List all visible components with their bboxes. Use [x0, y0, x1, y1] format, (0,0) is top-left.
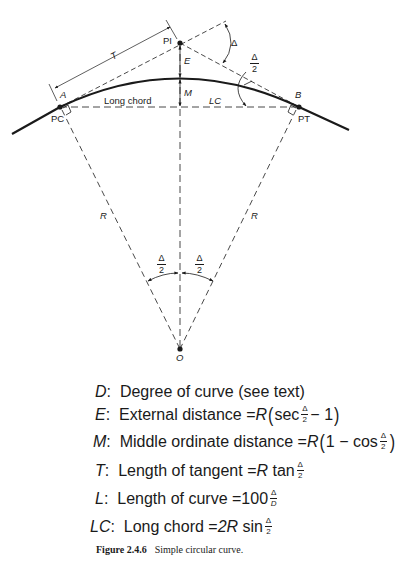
definition-text: Middle ordinate distance =: [120, 433, 307, 451]
formula-rparen: ): [390, 431, 395, 452]
fraction-numerator: Δ: [302, 405, 307, 413]
formula-sec: sec: [274, 406, 299, 424]
colon: :: [106, 406, 119, 424]
formula-sin: sin: [243, 518, 263, 536]
half-delta-arc-pt: [238, 72, 246, 106]
definition-d: D: Degree of curve (see text): [95, 383, 305, 401]
formula-fraction: Δ2: [380, 432, 387, 451]
definition-e: E: External distance = R ( sec Δ2 − 1 ): [95, 405, 340, 424]
fraction-denominator: 2: [252, 65, 257, 74]
point-o: [177, 346, 182, 351]
label-pt: PT: [298, 114, 310, 124]
definition-symbol: LC: [90, 518, 110, 536]
point-pt: [296, 104, 301, 109]
fraction-denominator: 2: [303, 416, 307, 424]
definition-m: M: Middle ordinate distance = R ( 1 − co…: [93, 432, 396, 451]
label-half-delta-o-left: Δ 2: [157, 254, 166, 275]
definition-l: L: Length of curve = 100 ΔD: [95, 489, 279, 508]
fraction-numerator: Δ: [381, 432, 386, 440]
label-pi: PI: [163, 36, 172, 46]
point-pc: [57, 104, 62, 109]
formula-fraction: Δ2: [301, 405, 308, 424]
fraction-denominator: 2: [266, 528, 270, 536]
formula-hundred: 100: [241, 490, 268, 508]
fraction-denominator: 2: [298, 472, 302, 480]
formula-r: R: [256, 462, 268, 480]
right-angle-pt: [288, 105, 296, 115]
point-pi: [177, 40, 182, 45]
label-o: O: [176, 353, 183, 363]
fraction-numerator: Δ: [298, 461, 303, 469]
fraction-denominator: 2: [159, 266, 164, 275]
definition-symbol: E: [95, 406, 106, 424]
fraction-numerator: Δ: [271, 489, 276, 497]
radius-left-line: [62, 110, 180, 349]
fraction-numerator: Δ: [196, 254, 202, 263]
half-delta-tick: [244, 81, 252, 85]
fraction-numerator: Δ: [266, 517, 271, 525]
formula-two-r: 2R: [218, 518, 238, 536]
definition-text: Length of curve =: [117, 490, 241, 508]
formula-minus-one: − 1: [310, 406, 333, 424]
formula-lparen: (: [319, 431, 324, 452]
colon: :: [105, 462, 118, 480]
colon: :: [110, 518, 123, 536]
definition-text: Length of tangent =: [118, 462, 256, 480]
delta-arc: [223, 24, 231, 63]
formula-rparen: ): [334, 404, 339, 425]
label-b: B: [295, 90, 301, 100]
label-r-right: R: [251, 211, 258, 221]
definition-t: T: Length of tangent = R tan Δ2: [95, 461, 306, 480]
figure-number: Figure 2.4.6: [96, 544, 147, 555]
formula-fraction: ΔD: [270, 489, 277, 508]
definition-text: Degree of curve (see text): [120, 383, 305, 401]
fraction-numerator: Δ: [158, 254, 164, 263]
label-half-delta-pt: Δ 2: [250, 53, 259, 74]
definition-symbol: T: [95, 462, 105, 480]
formula-fraction: Δ2: [297, 461, 304, 480]
t-extension-left: [49, 84, 57, 101]
colon: :: [106, 433, 119, 451]
label-r-left: R: [100, 211, 107, 221]
forward-tangent-line: [180, 43, 299, 107]
colon: :: [104, 490, 117, 508]
label-e: E: [184, 56, 190, 66]
formula-cos: cos: [353, 433, 378, 451]
fraction-denominator: D: [271, 500, 277, 508]
label-delta: Δ: [231, 38, 237, 48]
label-pc: PC: [51, 114, 64, 124]
formula-lparen: (: [268, 404, 273, 425]
definition-lc: LC: Long chord = 2R sin Δ2: [90, 517, 274, 536]
formula-one-minus: 1 −: [326, 433, 349, 451]
definition-text: External distance =: [119, 406, 256, 424]
label-half-delta-o-right: Δ 2: [195, 254, 204, 275]
formula-fraction: Δ2: [265, 517, 272, 536]
fraction-denominator: 2: [197, 266, 202, 275]
formula-r: R: [256, 406, 268, 424]
definition-text: Long chord =: [124, 518, 218, 536]
definition-symbol: L: [95, 490, 104, 508]
label-lc: LC: [209, 96, 221, 106]
fraction-denominator: 2: [381, 443, 385, 451]
label-m: M: [184, 88, 192, 98]
label-long-chord: Long chord: [104, 96, 152, 106]
radius-right-line: [180, 110, 296, 349]
fraction-numerator: Δ: [251, 53, 257, 62]
colon: :: [107, 383, 120, 401]
formula-tan: tan: [272, 462, 294, 480]
figure-caption: Figure 2.4.6Simple circular curve.: [96, 544, 243, 555]
definition-symbol: M: [93, 433, 106, 451]
figure-title: Simple circular curve.: [155, 544, 244, 555]
formula-r: R: [307, 433, 319, 451]
label-a: A: [60, 90, 66, 100]
definition-symbol: D: [95, 383, 107, 401]
